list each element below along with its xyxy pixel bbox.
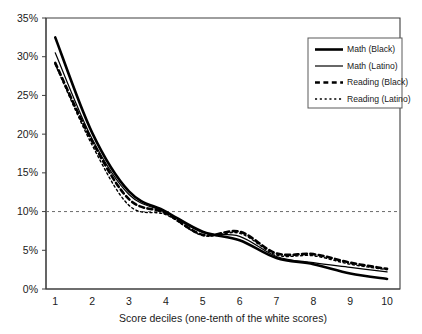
x-tick-label: 6 bbox=[237, 295, 243, 307]
x-tick-label: 8 bbox=[310, 295, 316, 307]
legend-label: Reading (Latino) bbox=[347, 94, 411, 104]
x-tick-label: 7 bbox=[274, 295, 280, 307]
y-tick-label: 25% bbox=[17, 89, 38, 101]
line-chart: 0%5%10%15%20%25%30%35% 12345678910 Math … bbox=[0, 0, 422, 334]
y-tick-label: 20% bbox=[17, 128, 38, 140]
legend-label: Reading (Black) bbox=[347, 77, 408, 87]
y-tick-label: 30% bbox=[17, 50, 38, 62]
x-axis-labels: 12345678910 bbox=[52, 295, 393, 307]
y-axis-ticks bbox=[42, 18, 46, 289]
chart-legend: Math (Black)Math (Latino)Reading (Black)… bbox=[308, 38, 411, 108]
x-tick-label: 4 bbox=[163, 295, 169, 307]
legend-label: Math (Latino) bbox=[347, 61, 398, 71]
y-tick-label: 15% bbox=[17, 166, 38, 178]
x-tick-label: 3 bbox=[126, 295, 132, 307]
x-tick-label: 5 bbox=[200, 295, 206, 307]
y-axis-labels: 0%5%10%15%20%25%30%35% bbox=[17, 12, 38, 295]
y-tick-label: 5% bbox=[23, 244, 38, 256]
x-tick-label: 9 bbox=[347, 295, 353, 307]
x-tick-label: 2 bbox=[89, 295, 95, 307]
y-tick-label: 10% bbox=[17, 205, 38, 217]
y-tick-label: 35% bbox=[17, 12, 38, 24]
y-tick-label: 0% bbox=[23, 283, 38, 295]
x-tick-label: 1 bbox=[52, 295, 58, 307]
x-tick-label: 10 bbox=[381, 295, 393, 307]
x-axis-title: Score deciles (one-tenth of the white sc… bbox=[119, 312, 327, 324]
chart-figure: 0%5%10%15%20%25%30%35% 12345678910 Math … bbox=[0, 0, 422, 334]
legend-label: Math (Black) bbox=[347, 44, 395, 54]
